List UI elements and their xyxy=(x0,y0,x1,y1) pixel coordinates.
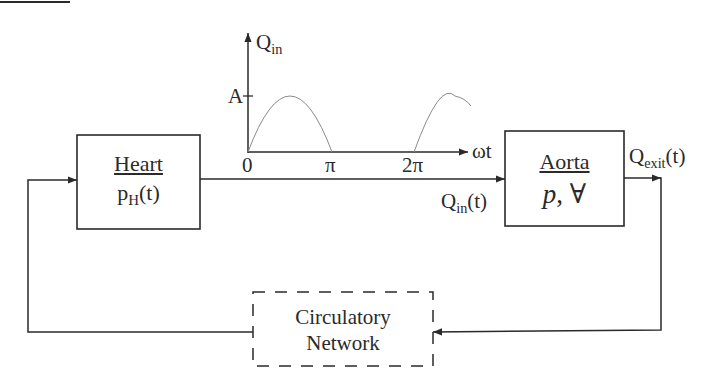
y-label-sub: in xyxy=(271,41,282,57)
inflow-main: Q xyxy=(441,189,456,213)
inflow-sub: in xyxy=(456,200,467,216)
aorta-title: Aorta xyxy=(505,151,624,173)
aorta-volume-symbol: , ∀ xyxy=(556,179,586,209)
aorta-variables: p, ∀ xyxy=(505,181,624,208)
inflow-label: Qin(t) xyxy=(441,191,487,215)
inset-y-label: Qin xyxy=(256,32,282,56)
x-tick-2pi: 2π xyxy=(402,155,423,176)
heart-variable: pH(t) xyxy=(77,182,200,208)
aorta-pressure-symbol: p xyxy=(543,179,557,209)
heart-var-tail: (t) xyxy=(139,180,160,205)
heart-var-main: p xyxy=(117,180,128,205)
heart-title: Heart xyxy=(77,153,200,175)
exit-flow-label: Qexit(t) xyxy=(629,146,685,170)
y-label-main: Q xyxy=(256,30,271,54)
inflow-curve xyxy=(248,96,332,152)
aorta-label: Aorta xyxy=(505,151,624,173)
x-tick-0: 0 xyxy=(242,155,253,176)
network-line2: Network xyxy=(253,330,433,356)
amplitude-label: A xyxy=(228,86,243,107)
network-label: Circulatory Network xyxy=(253,304,433,356)
x-tick-pi: π xyxy=(325,155,336,176)
exit-tail: (t) xyxy=(666,144,686,168)
circulation-block-diagram: Qin A 0 π 2π ωt Heart pH(t) Aorta p, ∀ Q… xyxy=(0,0,720,389)
inflow-curve-second xyxy=(414,93,471,152)
exit-main: Q xyxy=(629,144,644,168)
network-line1: Circulatory xyxy=(253,304,433,330)
exit-sub: exit xyxy=(644,155,665,171)
heart-var-sub: H xyxy=(128,192,139,208)
inset-x-label: ωt xyxy=(472,141,492,162)
heart-label: Heart xyxy=(77,153,200,175)
inflow-tail: (t) xyxy=(467,189,487,213)
